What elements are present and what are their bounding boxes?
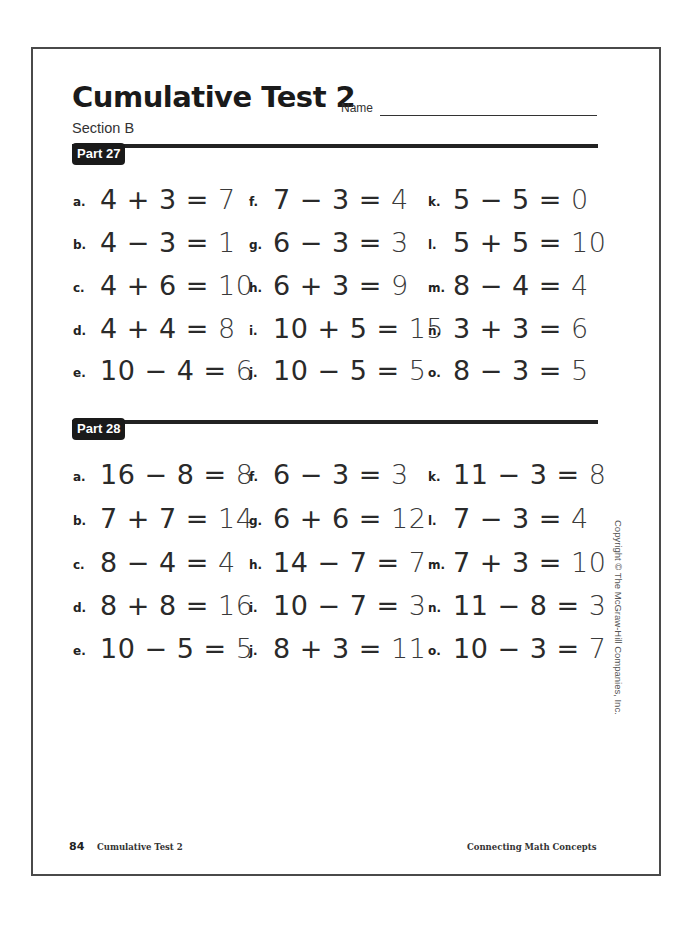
problem-expression: 5 + 5 = bbox=[453, 227, 562, 258]
problem-letter: c. bbox=[73, 281, 85, 295]
problem-expression: 7 − 3 = bbox=[453, 503, 562, 534]
problem-equation: 6 + 6 = 12 bbox=[273, 503, 426, 534]
part-28-label: Part 28 bbox=[72, 418, 125, 440]
problem-equation: 8 + 3 = 11 bbox=[273, 633, 426, 664]
problem-expression: 3 + 3 = bbox=[453, 313, 562, 344]
problem-answer[interactable]: 6 bbox=[571, 313, 589, 344]
problem-answer[interactable]: 7 bbox=[589, 633, 607, 664]
problem-expression: 8 − 3 = bbox=[453, 355, 562, 386]
problem-answer[interactable]: 8 bbox=[218, 313, 236, 344]
problem-row: a.4 + 3 = 7f.7 − 3 = 4k.5 − 5 = 0 bbox=[0, 177, 700, 217]
problem-equation: 16 − 8 = 8 bbox=[100, 459, 253, 490]
problem-answer[interactable]: 4 bbox=[218, 547, 236, 578]
problem-answer[interactable]: 5 bbox=[571, 355, 589, 386]
problem-equation: 11 − 8 = 3 bbox=[453, 590, 606, 621]
problem-equation: 11 − 3 = 8 bbox=[453, 459, 606, 490]
problem-expression: 4 + 6 = bbox=[100, 270, 209, 301]
problem-answer[interactable]: 10 bbox=[218, 270, 253, 301]
problem-letter: d. bbox=[73, 601, 86, 615]
problem-equation: 4 − 3 = 1 bbox=[100, 227, 236, 258]
problem-answer[interactable]: 12 bbox=[391, 503, 426, 534]
problem-expression: 4 + 4 = bbox=[100, 313, 209, 344]
problem-expression: 7 − 3 = bbox=[273, 184, 382, 215]
part-28-rule bbox=[72, 420, 598, 424]
problem-answer[interactable]: 3 bbox=[391, 227, 409, 258]
problem-equation: 7 + 7 = 14 bbox=[100, 503, 253, 534]
problem-letter: f. bbox=[249, 195, 258, 209]
problem-expression: 7 + 3 = bbox=[453, 547, 562, 578]
problem-letter: l. bbox=[428, 514, 437, 528]
problem-letter: o. bbox=[428, 366, 441, 380]
problem-letter: i. bbox=[249, 324, 258, 338]
problem-letter: j. bbox=[249, 644, 258, 658]
problem-letter: f. bbox=[249, 470, 258, 484]
problem-expression: 10 − 4 = bbox=[100, 355, 227, 386]
problem-answer[interactable]: 3 bbox=[391, 459, 409, 490]
name-label: Name bbox=[341, 101, 373, 115]
problem-answer[interactable]: 10 bbox=[571, 227, 606, 258]
problem-answer[interactable]: 7 bbox=[409, 547, 427, 578]
problem-answer[interactable]: 9 bbox=[391, 270, 409, 301]
problem-equation: 4 + 4 = 8 bbox=[100, 313, 236, 344]
problem-answer[interactable]: 10 bbox=[571, 547, 606, 578]
problem-answer[interactable]: 5 bbox=[409, 355, 427, 386]
problem-answer[interactable]: 8 bbox=[589, 459, 607, 490]
problem-expression: 10 − 7 = bbox=[273, 590, 400, 621]
problem-answer[interactable]: 16 bbox=[218, 590, 253, 621]
part-27-rule bbox=[72, 144, 598, 148]
problem-letter: a. bbox=[73, 470, 86, 484]
problem-letter: e. bbox=[73, 644, 86, 658]
problem-expression: 11 − 8 = bbox=[453, 590, 580, 621]
problem-answer[interactable]: 0 bbox=[571, 184, 589, 215]
problem-answer[interactable]: 14 bbox=[218, 503, 253, 534]
problem-equation: 10 − 7 = 3 bbox=[273, 590, 426, 621]
problem-letter: l. bbox=[428, 238, 437, 252]
problem-letter: k. bbox=[428, 195, 441, 209]
problem-expression: 10 + 5 = bbox=[273, 313, 400, 344]
problem-answer[interactable]: 4 bbox=[391, 184, 409, 215]
problem-row: d.8 + 8 = 16i.10 − 7 = 3n.11 − 8 = 3 bbox=[0, 583, 700, 623]
problem-expression: 7 + 7 = bbox=[100, 503, 209, 534]
problem-equation: 8 − 3 = 5 bbox=[453, 355, 589, 386]
problem-answer[interactable]: 7 bbox=[218, 184, 236, 215]
footer-page-title: Cumulative Test 2 bbox=[97, 842, 183, 852]
problem-expression: 8 − 4 = bbox=[453, 270, 562, 301]
problem-letter: e. bbox=[73, 366, 86, 380]
problem-expression: 16 − 8 = bbox=[100, 459, 227, 490]
problem-letter: n. bbox=[428, 601, 441, 615]
problem-expression: 5 − 5 = bbox=[453, 184, 562, 215]
problem-answer[interactable]: 4 bbox=[571, 270, 589, 301]
problem-equation: 3 + 3 = 6 bbox=[453, 313, 589, 344]
problem-answer[interactable]: 3 bbox=[409, 590, 427, 621]
problem-equation: 14 − 7 = 7 bbox=[273, 547, 426, 578]
problem-letter: n. bbox=[428, 324, 441, 338]
problem-letter: j. bbox=[249, 366, 258, 380]
problem-answer[interactable]: 4 bbox=[571, 503, 589, 534]
problem-letter: d. bbox=[73, 324, 86, 338]
problem-letter: h. bbox=[249, 281, 262, 295]
problem-expression: 6 − 3 = bbox=[273, 459, 382, 490]
problem-answer[interactable]: 3 bbox=[589, 590, 607, 621]
problem-equation: 8 + 8 = 16 bbox=[100, 590, 253, 621]
page-number: 84 bbox=[69, 840, 84, 853]
problem-letter: b. bbox=[73, 238, 86, 252]
problem-letter: h. bbox=[249, 558, 262, 572]
problem-equation: 6 + 3 = 9 bbox=[273, 270, 409, 301]
problem-answer[interactable]: 11 bbox=[391, 633, 426, 664]
problem-letter: k. bbox=[428, 470, 441, 484]
problem-letter: a. bbox=[73, 195, 86, 209]
problem-row: e.10 − 5 = 5j.8 + 3 = 11o.10 − 3 = 7 bbox=[0, 626, 700, 666]
problem-expression: 8 + 8 = bbox=[100, 590, 209, 621]
problem-expression: 10 − 3 = bbox=[453, 633, 580, 664]
page-title: Cumulative Test 2 bbox=[72, 80, 355, 114]
problem-equation: 10 − 4 = 6 bbox=[100, 355, 253, 386]
problem-equation: 5 + 5 = 10 bbox=[453, 227, 606, 258]
problem-answer[interactable]: 1 bbox=[218, 227, 236, 258]
problem-expression: 4 − 3 = bbox=[100, 227, 209, 258]
problem-equation: 10 − 3 = 7 bbox=[453, 633, 606, 664]
problem-expression: 8 − 4 = bbox=[100, 547, 209, 578]
problem-letter: g. bbox=[249, 514, 262, 528]
problem-letter: m. bbox=[428, 558, 445, 572]
problem-equation: 7 − 3 = 4 bbox=[273, 184, 409, 215]
name-field-line[interactable] bbox=[380, 115, 597, 116]
